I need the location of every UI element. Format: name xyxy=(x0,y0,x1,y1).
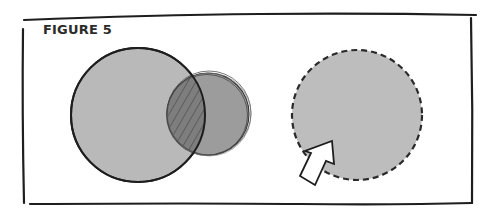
figure-canvas: FIGURE 5 xyxy=(0,0,498,216)
overlap-circle xyxy=(167,71,252,156)
figure-label: FIGURE 5 xyxy=(43,22,112,37)
